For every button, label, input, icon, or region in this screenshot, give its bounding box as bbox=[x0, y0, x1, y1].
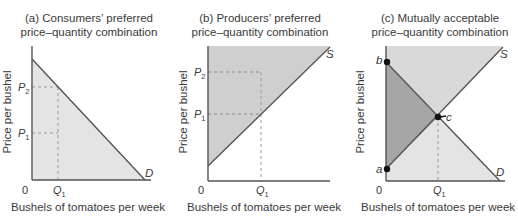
point-b bbox=[384, 59, 390, 65]
figure: (a) Consumers’ preferred price–quantity … bbox=[0, 0, 518, 219]
point-a bbox=[384, 166, 390, 172]
panel-c-title-line2: price–quantity combination bbox=[372, 26, 509, 38]
point-c-label: c bbox=[446, 111, 452, 123]
point-a-label: a bbox=[376, 163, 382, 175]
panel-b-supply-label: S bbox=[326, 48, 334, 60]
panel-a-x-axis-label: Bushels of tomatoes per week bbox=[11, 201, 165, 213]
panel-a-title-line1: (a) Consumers’ preferred bbox=[25, 12, 153, 24]
panel-c-q1-label: Q1 bbox=[433, 184, 446, 199]
panel-b-origin-label: 0 bbox=[198, 184, 204, 196]
panel-a: (a) Consumers’ preferred price–quantity … bbox=[1, 12, 165, 213]
panel-b-p1-label: P1 bbox=[194, 108, 206, 123]
panel-b-p2-label: P2 bbox=[194, 66, 206, 81]
panel-c-supply-label: S bbox=[500, 48, 508, 60]
panel-b-title-line1: (b) Producers’ preferred bbox=[199, 12, 321, 24]
panel-a-p1-label: P1 bbox=[18, 127, 30, 142]
panel-b-x-axis-label: Bushels of tomatoes per week bbox=[187, 201, 341, 213]
panel-b-q1-label: Q1 bbox=[256, 184, 269, 199]
panel-a-y-axis-label: Price per bushel bbox=[1, 70, 13, 153]
panel-b-y-axis-label: Price per bushel bbox=[177, 70, 189, 153]
panel-b: (b) Producers’ preferred price–quantity … bbox=[177, 12, 341, 213]
panel-c: (c) Mutually acceptable price–quantity c… bbox=[354, 12, 515, 213]
panel-a-p2-label: P2 bbox=[18, 81, 30, 96]
panel-a-origin-label: 0 bbox=[22, 184, 28, 196]
panel-a-demand-label: D bbox=[145, 167, 153, 179]
panel-c-x-axis-label: Bushels of tomatoes per week bbox=[361, 201, 515, 213]
point-b-label: b bbox=[376, 54, 383, 66]
panel-c-demand-label: D bbox=[496, 166, 504, 178]
panel-a-title-line2: price–quantity combination bbox=[21, 26, 158, 38]
panel-a-q1-label: Q1 bbox=[53, 184, 66, 199]
panel-c-title-line1: (c) Mutually acceptable bbox=[381, 12, 499, 24]
panel-b-title-line2: price–quantity combination bbox=[192, 26, 329, 38]
panel-c-origin-label: 0 bbox=[376, 184, 382, 196]
panel-c-y-axis-label: Price per bushel bbox=[354, 70, 366, 153]
